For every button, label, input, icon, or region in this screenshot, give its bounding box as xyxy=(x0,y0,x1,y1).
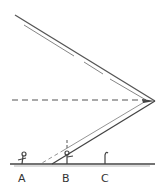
inner-ray-lower xyxy=(64,101,146,150)
figure-b xyxy=(65,151,73,164)
label-a: A xyxy=(18,172,26,185)
figure-c xyxy=(105,152,108,164)
inner-ray-lower-dashed xyxy=(42,150,64,163)
label-b: B xyxy=(62,172,70,185)
reflection-diagram: A B C xyxy=(0,0,168,188)
inner-ray-upper xyxy=(24,25,74,56)
outer-ray-upper xyxy=(15,15,155,101)
label-c: C xyxy=(101,172,109,185)
figure-a xyxy=(18,152,26,164)
inner-ray-upper-seg3 xyxy=(110,79,146,100)
